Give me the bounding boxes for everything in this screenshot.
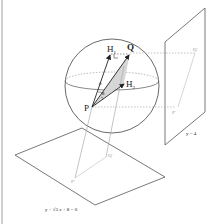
label-theta-upper: θ xyxy=(99,81,102,86)
bottom-plane xyxy=(15,128,165,205)
label-p: P xyxy=(84,103,89,113)
label-p-proj-bottom: P' xyxy=(71,179,75,184)
sphere-planes-diagram: H1 Q H2 P θ θ Q' P' Q' P' y = 4 y + √3 z… xyxy=(0,0,216,224)
diagram-canvas: H1 Q H2 P θ θ Q' P' Q' P' y = 4 y + √3 z… xyxy=(0,0,216,224)
right-plane xyxy=(165,8,205,145)
bottom-plane-segment xyxy=(75,157,106,178)
label-q: Q xyxy=(127,42,134,52)
label-bottom-plane: y + √3 z + 8 = 0 xyxy=(45,207,78,212)
label-q-proj-bottom: Q' xyxy=(108,153,113,158)
label-h1: H1 xyxy=(107,44,117,55)
label-q-proj-right: Q' xyxy=(193,47,198,52)
label-right-plane: y = 4 xyxy=(186,131,197,136)
label-p-proj-right: P' xyxy=(172,110,176,115)
right-plane-segment xyxy=(178,53,195,107)
label-h2: H2 xyxy=(126,79,136,90)
